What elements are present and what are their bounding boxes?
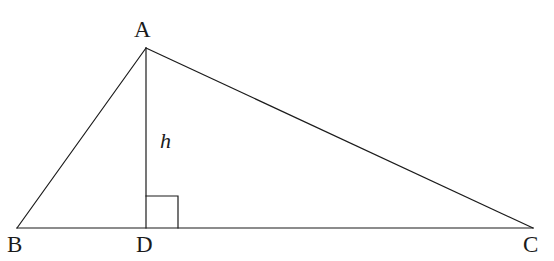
side-AC-line [146,48,533,228]
geometry-diagram: A B C D h [0,0,554,261]
triangle-svg [0,0,554,261]
right-angle-marker-icon [146,196,178,228]
vertex-label-b: B [7,233,22,256]
vertex-label-d: D [136,233,153,256]
side-AB-line [17,48,146,228]
vertex-label-c: C [523,233,538,256]
vertex-label-a: A [134,18,151,41]
altitude-label-h: h [160,130,171,152]
